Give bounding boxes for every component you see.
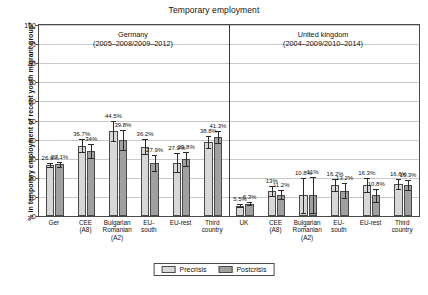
x-axis-category-line: (A8) [269,226,282,233]
y-axis-tick-mark [36,82,39,83]
bar-value-label: 39.8% [114,122,131,128]
panel-years: (2004–2009/2010–2014) [228,39,418,48]
x-axis-category-line: south [331,226,347,233]
error-bar-cap-upper [396,179,402,180]
x-axis-category-label: BulgarianRomanian(A2) [293,219,322,241]
error-bar-cap-upper [215,131,221,132]
error-bar [408,180,409,191]
panel-name: Germany [38,30,228,39]
y-axis-tick-mark [36,140,39,141]
x-axis-category-line: EU- [141,219,157,226]
x-axis-category-label: UK [239,219,248,226]
bar-value-label: 11.2% [273,182,290,188]
bar-value-label: 44.5% [105,113,122,119]
x-axis-category-line: south [141,226,157,233]
error-bar-cap-lower [278,199,284,200]
legend-swatch-postcrisis [218,266,232,273]
x-axis-category-line: Third [392,219,413,226]
error-bar-cap-upper [237,204,243,205]
error-bar-cap-upper [364,178,370,179]
legend-swatch-precrisis [162,266,176,273]
bar-postcrisis [87,151,95,216]
error-bar-cap-upper [183,152,189,153]
bar-postcrisis [214,137,222,216]
error-bar-cap-lower [310,213,316,214]
bar-value-label: 27.1% [51,154,68,160]
y-axis-tick-mark [36,178,39,179]
error-bar [303,178,304,212]
bar-value-label: 29.8% [178,144,195,150]
y-axis-tick-mark [36,197,39,198]
error-bar-cap-lower [174,172,180,173]
bar-value-label: 36.2% [137,131,154,137]
x-axis-category-label: Thirdcountry [392,219,413,234]
error-bar [91,144,92,158]
error-bar [281,190,282,199]
x-axis-category-line: Ger [49,219,60,226]
y-axis-tick-mark [36,101,39,102]
error-bar-cap-lower [57,167,63,168]
x-axis-category-line: EU- [331,219,347,226]
error-bar [376,189,377,202]
error-bar [186,152,187,166]
bar-precrisis [78,146,86,216]
plot-area: 010203040506070809010026.6%27.1%36.7%34%… [38,24,420,217]
error-bar-cap-lower [79,152,85,153]
error-bar-cap-upper [206,136,212,137]
x-axis-category-label: EU-south [141,219,157,234]
error-bar-cap-upper [373,189,379,190]
bar-value-label: 10.8% [368,181,385,187]
error-bar-cap-lower [301,213,307,214]
bar-value-label: 16.3% [358,170,375,176]
error-bar-cap-upper [174,153,180,154]
error-bar-cap-upper [88,144,94,145]
x-axis-category-line: country [392,226,413,233]
error-bar-cap-upper [310,177,316,178]
chart-root: Temporary employment % in temporary empl… [0,0,428,295]
chart-title: Temporary employment [0,5,428,15]
error-bar-cap-lower [247,205,253,206]
bar-value-label: 11% [307,169,319,175]
error-bar-cap-lower [396,189,402,190]
bar-precrisis [46,165,54,216]
y-axis-tick-mark [36,216,39,217]
error-bar-cap-lower [88,158,94,159]
bar-value-label: 27.9% [146,147,163,153]
error-bar [155,155,156,171]
error-bar-cap-upper [57,162,63,163]
bar-precrisis [141,147,149,216]
error-bar [123,130,124,150]
error-bar-cap-upper [152,155,158,156]
error-bar-cap-upper [79,139,85,140]
x-axis-category-label: Ger [49,219,60,226]
error-bar [398,179,399,189]
panel-divider [229,25,230,216]
x-axis-category-line: country [202,226,223,233]
x-axis-category-line: Romanian [293,226,322,233]
y-axis-tick-mark [36,63,39,64]
x-axis-category-line: (A2) [293,234,322,241]
x-axis-category-line: CEE [269,219,282,226]
error-bar-cap-upper [342,183,348,184]
x-axis-category-line: EU-rest [360,219,382,226]
x-axis-category-label: EU-rest [170,219,192,226]
error-bar [82,139,83,152]
error-bar-cap-lower [206,148,212,149]
y-axis-tick-mark [36,121,39,122]
legend-item-postcrisis: Postcrisis [218,266,266,273]
error-bar-cap-upper [405,180,411,181]
error-bar-cap-lower [364,192,370,193]
error-bar-cap-lower [342,198,348,199]
panel-header-united-kingdom: United kingdom(2004–2009/2010–2014) [228,30,418,48]
error-bar-cap-lower [405,190,411,191]
legend-label-precrisis: Precrisis [180,266,207,273]
x-axis-category-label: CEE(A8) [269,219,282,234]
x-axis-category-line: CEE [79,219,92,226]
error-bar-cap-upper [247,202,253,203]
error-bar-cap-upper [120,130,126,131]
chart-legend: Precrisis Postcrisis [154,263,275,276]
error-bar-cap-upper [142,139,148,140]
bar-value-label: 41.3% [209,123,226,129]
x-axis-category-label: CEE(A8) [79,219,92,234]
bar-value-label: 34% [85,136,97,142]
